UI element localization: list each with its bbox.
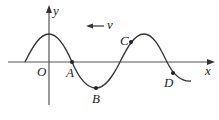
origin-label: O (37, 65, 46, 78)
y-axis-label: y (53, 4, 59, 17)
point-c (129, 40, 133, 44)
x-axis-label: x (205, 64, 211, 77)
velocity-arrow-head-icon (86, 24, 93, 29)
point-b-label: B (92, 92, 100, 105)
point-d-label: D (164, 76, 173, 89)
point-c-label: C (120, 34, 129, 47)
wave-diagram: y x O v A B C D (0, 0, 219, 120)
point-a-label: A (66, 66, 74, 79)
y-axis-arrow-icon (46, 5, 52, 13)
point-a (70, 60, 74, 64)
point-b (94, 86, 98, 90)
velocity-label: v (107, 18, 113, 31)
